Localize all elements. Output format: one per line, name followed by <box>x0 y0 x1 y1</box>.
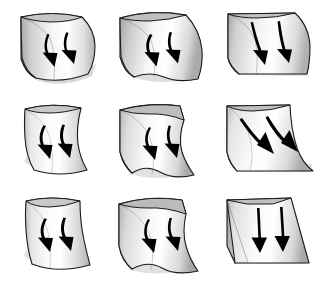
diagram-cell-r3c3 <box>217 188 325 282</box>
shape-top-surface <box>228 13 310 74</box>
diagram-cell-r2c3 <box>217 94 325 188</box>
diagram-cell-r2c1 <box>0 94 108 188</box>
shape-top-surface <box>25 105 88 174</box>
shape-top-surface <box>120 105 194 177</box>
shape-top-surface <box>26 198 91 269</box>
shape-top-surface <box>21 14 95 81</box>
diagram-cell-r1c3 <box>217 0 325 94</box>
diagram-cell-r3c1 <box>0 188 108 282</box>
diagram-cell-r3c2 <box>108 188 216 282</box>
diagram-cell-r1c1 <box>0 0 108 94</box>
shape-top-surface <box>227 198 309 263</box>
shape-top-surface <box>120 13 202 81</box>
diagram-cell-r1c2 <box>108 0 216 94</box>
surface-curvature-figure <box>0 0 325 282</box>
diagram-cell-r2c2 <box>108 94 216 188</box>
shape-top-surface <box>227 105 313 171</box>
shape-top-surface <box>119 198 198 273</box>
